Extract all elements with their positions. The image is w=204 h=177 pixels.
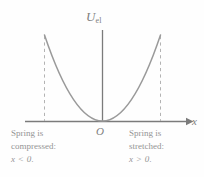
caption-stretched-line1: Spring is [129, 127, 164, 140]
caption-compressed-condition: x < 0. [11, 153, 56, 166]
x-axis-label: x [192, 114, 197, 129]
caption-stretched: Spring is stretched: x > 0. [129, 127, 164, 166]
caption-compressed-line2: compressed: [11, 140, 56, 153]
caption-compressed: Spring is compressed: x < 0. [11, 127, 56, 166]
y-axis-label-subscript: el [95, 16, 101, 25]
caption-stretched-line2: stretched: [129, 140, 164, 153]
elastic-potential-energy-figure: Uel x O Spring is compressed: x < 0. Spr… [0, 0, 204, 177]
origin-label: O [96, 124, 104, 139]
y-axis-label-main: U [86, 9, 95, 24]
caption-compressed-line1: Spring is [11, 127, 56, 140]
y-axis-label: Uel [86, 8, 102, 27]
caption-stretched-condition: x > 0. [129, 153, 164, 166]
